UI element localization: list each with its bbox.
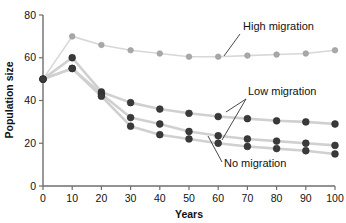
y-axis: 020406080 xyxy=(24,9,43,192)
data-point xyxy=(244,115,251,122)
data-point xyxy=(156,106,163,113)
data-point xyxy=(99,42,105,48)
data-point xyxy=(215,132,222,139)
data-point xyxy=(332,47,338,53)
data-point xyxy=(302,140,309,147)
x-tick-label: 30 xyxy=(125,192,137,204)
data-point xyxy=(302,147,309,154)
annotation-label-low: Low migration xyxy=(248,85,316,97)
annotation-label-none: No migration xyxy=(224,157,286,169)
data-point xyxy=(69,54,76,61)
y-axis-title: Population size xyxy=(3,61,15,138)
annotation-leader-none xyxy=(208,136,222,162)
data-point xyxy=(40,76,47,83)
y-tick-label: 20 xyxy=(24,137,36,149)
data-point xyxy=(273,117,280,124)
annotation-leader-high xyxy=(224,34,240,56)
data-point xyxy=(186,128,193,135)
x-tick-label: 20 xyxy=(96,192,108,204)
annotation-leader-low-a xyxy=(226,99,246,112)
data-point xyxy=(128,47,134,53)
data-point xyxy=(332,151,339,158)
data-point xyxy=(273,145,280,152)
x-axis-title: Years xyxy=(175,208,203,220)
data-point xyxy=(156,121,163,128)
annotation-label-high: High migration xyxy=(243,20,314,32)
data-point xyxy=(244,143,251,150)
x-tick-label: 80 xyxy=(271,192,283,204)
data-point xyxy=(215,113,222,120)
data-point xyxy=(244,136,251,143)
data-point xyxy=(332,142,339,149)
data-point xyxy=(98,93,105,100)
data-point xyxy=(215,54,221,60)
y-tick-label: 0 xyxy=(30,180,36,192)
y-tick-label: 40 xyxy=(24,94,36,106)
chart-canvas: 020406080 0102030405060708090100 High mi… xyxy=(0,0,346,223)
x-tick-label: 100 xyxy=(326,192,344,204)
data-point xyxy=(186,110,193,117)
x-tick-label: 90 xyxy=(300,192,312,204)
data-point xyxy=(274,52,280,58)
data-point xyxy=(186,136,193,143)
data-point xyxy=(127,114,134,121)
data-point xyxy=(69,34,75,40)
data-point xyxy=(302,118,309,125)
data-point xyxy=(69,65,76,72)
x-tick-label: 70 xyxy=(242,192,254,204)
x-tick-label: 10 xyxy=(66,192,78,204)
data-point xyxy=(127,99,134,106)
data-point xyxy=(156,131,163,138)
x-axis: 0102030405060708090100 xyxy=(40,186,344,204)
data-point xyxy=(273,138,280,145)
x-tick-label: 50 xyxy=(183,192,195,204)
data-point xyxy=(157,51,163,57)
x-tick-label: 40 xyxy=(154,192,166,204)
data-point xyxy=(332,121,339,128)
data-point xyxy=(186,54,192,60)
y-tick-label: 60 xyxy=(24,51,36,63)
data-point xyxy=(215,140,222,147)
population-size-chart: 020406080 0102030405060708090100 High mi… xyxy=(0,0,346,223)
x-tick-label: 0 xyxy=(40,192,46,204)
y-tick-label: 80 xyxy=(24,9,36,21)
data-point xyxy=(245,53,251,59)
data-point xyxy=(127,123,134,130)
data-point xyxy=(303,51,309,57)
x-tick-label: 60 xyxy=(212,192,224,204)
